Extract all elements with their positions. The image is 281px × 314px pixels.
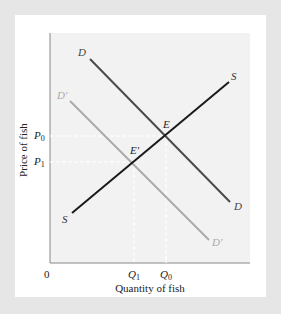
label-dprime-bottom: D' xyxy=(211,236,223,248)
tick-q1: Q1 xyxy=(128,268,140,282)
y-axis-label: Price of fish xyxy=(17,123,29,177)
origin-label: 0 xyxy=(44,268,50,280)
label-e: E xyxy=(162,118,170,130)
label-d-bottom: D xyxy=(233,200,242,212)
x-axis-label: Quantity of fish xyxy=(115,282,185,294)
tick-q0: Q0 xyxy=(160,268,172,282)
tick-p1: P1 xyxy=(33,155,45,169)
tick-p0: P0 xyxy=(33,129,45,143)
label-dprime-top: D' xyxy=(56,89,68,101)
label-e-prime: E' xyxy=(129,144,140,156)
label-d-top: D xyxy=(77,46,86,58)
label-s-bottom: S xyxy=(62,213,68,225)
label-s-top: S xyxy=(231,70,237,82)
supply-demand-chart: D D D' D' S S E E' P0 P1 Q1 Q0 0 Quantit… xyxy=(0,0,281,314)
